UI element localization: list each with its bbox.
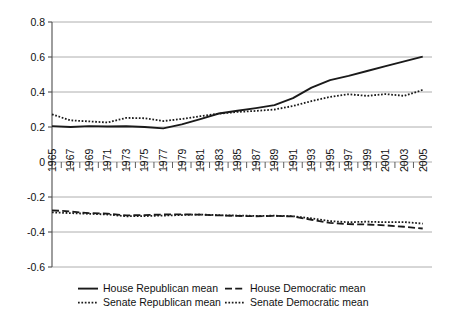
- legend-label-1: House Democratic mean: [250, 282, 366, 294]
- y-axis-tick-labels: 0.80.60.40.20-0.2-0.4-0.6: [27, 16, 52, 273]
- y-tick-label: 0: [39, 156, 45, 168]
- x-tick-label: 1981: [194, 148, 206, 172]
- y-tick-label: 0.8: [30, 16, 45, 28]
- x-tick-label: 1989: [268, 148, 280, 172]
- gridlines: [52, 22, 432, 267]
- x-tick-label: 1983: [213, 148, 225, 172]
- x-tick-label: 1977: [157, 148, 169, 172]
- series-line-1: [52, 210, 423, 228]
- y-tick-label: -0.6: [27, 261, 45, 273]
- x-tick-label: 1973: [120, 148, 132, 172]
- series-line-2: [52, 90, 423, 123]
- chart-container: 0.80.60.40.20-0.2-0.4-0.6 19651967196919…: [0, 0, 451, 323]
- x-tick-label: 1965: [46, 148, 58, 172]
- x-tick-label: 2003: [398, 148, 410, 172]
- x-tick-label: 1991: [287, 148, 299, 172]
- line-chart: 0.80.60.40.20-0.2-0.4-0.6 19651967196919…: [0, 0, 451, 323]
- x-axis-tick-labels: 1965196719691971197319751977197919811983…: [46, 148, 429, 172]
- x-tick-label: 1995: [324, 148, 336, 172]
- x-tick-label: 1993: [305, 148, 317, 172]
- y-tick-label: -0.4: [27, 226, 45, 238]
- series-line-3: [52, 212, 423, 223]
- y-tick-label: 0.2: [30, 121, 45, 133]
- x-tick-label: 1987: [250, 148, 262, 172]
- series-line-0: [52, 57, 423, 129]
- x-tick-label: 1999: [361, 148, 373, 172]
- x-tick-label: 1979: [176, 148, 188, 172]
- x-tick-label: 1997: [342, 148, 354, 172]
- x-tick-label: 2001: [379, 148, 391, 172]
- x-tick-label: 2005: [417, 148, 429, 172]
- legend-label-3: Senate Democratic mean: [250, 296, 369, 308]
- chart-legend: House Republican meanHouse Democratic me…: [78, 282, 369, 308]
- legend-label-2: Senate Republican mean: [103, 296, 221, 308]
- data-series-group: [52, 57, 423, 229]
- y-tick-label: 0.6: [30, 51, 45, 63]
- x-tick-label: 1985: [231, 148, 243, 172]
- x-tick-label: 1971: [101, 148, 113, 172]
- y-tick-label: -0.2: [27, 191, 45, 203]
- x-tick-label: 1975: [138, 148, 150, 172]
- x-tick-label: 1967: [64, 148, 76, 172]
- y-tick-label: 0.4: [30, 86, 45, 98]
- x-tick-label: 1969: [83, 148, 95, 172]
- legend-label-0: House Republican mean: [103, 282, 218, 294]
